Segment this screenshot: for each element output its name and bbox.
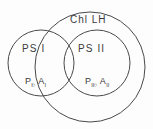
reaction-center-two-label: PII○AII [85,76,109,86]
ps-two-label: PS II [78,43,105,54]
chlorophyll-light-harvesting-circle [35,12,145,122]
photosystem-diagram: Chl LH PS I PS II PI○AI PII○AII [0,0,153,129]
rc2-a-subscript: II [106,82,109,88]
reaction-center-one-label: PI○AI [25,76,46,86]
chl-lh-label: Chl LH [70,14,107,25]
ps-one-label: PS I [22,43,45,54]
rc1-a-term: AI [38,76,46,86]
rc1-p-degree-symbol: ○ [32,82,36,88]
rc1-p-term: PI○ [25,76,37,86]
rc2-p-degree-symbol: ○ [93,82,97,88]
rc2-a-term: AII [100,76,109,86]
rc1-a-symbol: A [38,76,44,86]
rc1-a-subscript: I [45,82,47,88]
rc2-p-term: PII○ [85,76,98,86]
